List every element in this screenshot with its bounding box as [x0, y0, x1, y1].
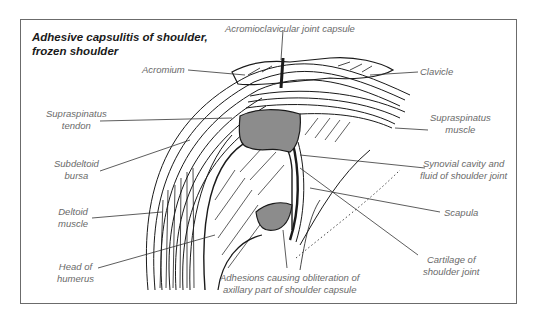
- label-text: Adhesions causing obliteration of: [220, 272, 359, 284]
- label-adhesions: Adhesions causing obliteration of axilla…: [220, 272, 359, 296]
- diagram-title: Adhesive capsulitis of shoulder, frozen …: [32, 30, 208, 58]
- label-text: Scapula: [444, 207, 478, 219]
- label-text: shoulder joint: [423, 266, 480, 278]
- label-text: muscle: [430, 124, 491, 136]
- label-text: Subdeltoid: [54, 158, 99, 170]
- label-acromium: Acromium: [142, 64, 185, 76]
- adhesion-axillary: [256, 203, 292, 231]
- deltoid-outline: [146, 64, 410, 290]
- label-head-of-humerus: Head of humerus: [57, 261, 94, 285]
- label-supraspinatus-tendon: Supraspinatus tendon: [46, 108, 107, 132]
- adhesion-superior: [239, 110, 300, 152]
- label-text: bursa: [54, 170, 99, 182]
- label-text: Synovial cavity and: [420, 158, 507, 170]
- ac-joint: [281, 58, 283, 88]
- label-text: Acromioclavicular joint capsule: [225, 23, 355, 35]
- label-acromioclavicular-joint-capsule: Acromioclavicular joint capsule: [225, 23, 355, 35]
- label-synovial-cavity: Synovial cavity and fluid of shoulder jo…: [420, 158, 507, 182]
- cartilage: [290, 140, 298, 240]
- label-text: Deltoid: [58, 206, 88, 218]
- label-text: Head of: [57, 261, 94, 273]
- label-text: tendon: [46, 120, 107, 132]
- label-text: Clavicle: [420, 66, 453, 78]
- title-line-1: Adhesive capsulitis of shoulder,: [32, 30, 208, 44]
- label-text: Cartilage of: [423, 254, 480, 266]
- label-text: fluid of shoulder joint: [420, 170, 507, 182]
- label-subdeltoid-bursa: Subdeltoid bursa: [54, 158, 99, 182]
- label-text: muscle: [58, 218, 88, 230]
- label-text: Acromium: [142, 64, 185, 76]
- label-text: Supraspinatus: [46, 108, 107, 120]
- label-deltoid-muscle: Deltoid muscle: [58, 206, 88, 230]
- label-text: humerus: [57, 273, 94, 285]
- label-cartilage-of-shoulder-joint: Cartilage of shoulder joint: [423, 254, 480, 278]
- label-supraspinatus-muscle: Supraspinatus muscle: [430, 112, 491, 136]
- label-scapula: Scapula: [444, 207, 478, 219]
- label-clavicle: Clavicle: [420, 66, 453, 78]
- title-line-2: frozen shoulder: [32, 44, 208, 58]
- label-text: axillary part of shoulder capsule: [220, 284, 359, 296]
- label-text: Supraspinatus: [430, 112, 491, 124]
